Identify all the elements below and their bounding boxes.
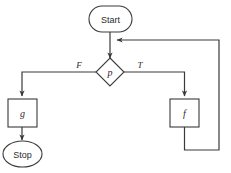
edge-false-branch [22, 72, 96, 96]
edge-loop-back [117, 40, 219, 150]
node-process-f[interactable]: f [170, 99, 199, 127]
edge-true-branch [124, 72, 185, 96]
flowchart-canvas: Start p F T g f Stop [0, 0, 231, 173]
decision-label: p [107, 67, 113, 78]
node-start[interactable]: Start [89, 6, 132, 32]
node-stop[interactable]: Stop [3, 141, 42, 167]
process-g-label: g [20, 108, 25, 119]
node-decision[interactable]: p [96, 58, 124, 86]
flowchart-svg: Start p F T g f Stop [0, 0, 231, 173]
node-process-g[interactable]: g [8, 99, 37, 127]
false-branch-label: F [75, 60, 82, 70]
true-branch-label: T [137, 60, 143, 70]
stop-label: Stop [13, 150, 32, 160]
start-label: Start [101, 15, 121, 25]
